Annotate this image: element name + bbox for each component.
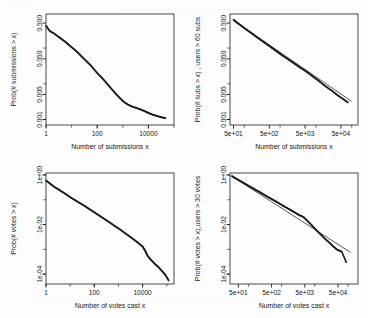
ccdf-step-path [46, 180, 169, 280]
plot-submissions-heavy-users: 5e+015e+025e+035e+040.5000.0500.0050.001… [184, 0, 368, 159]
plot-submissions-all: 1100100000.5000.0500.0050.001Number of s… [0, 0, 184, 159]
y-tick-label: 0.500 [220, 15, 227, 32]
y-tick-label: 0.001 [220, 111, 227, 128]
x-tick-label: 1 [44, 289, 48, 296]
ccdf-points [231, 175, 347, 263]
fit-line [233, 20, 351, 101]
chart-submissions-all: 1100100000.5000.0500.0050.001Number of s… [0, 0, 184, 159]
x-tick-label: 5e+01 [224, 130, 243, 137]
ccdf-points [45, 180, 169, 282]
chart-submissions-heavy-users: 5e+015e+025e+035e+040.5000.0500.0050.001… [184, 0, 368, 159]
x-axis-label: Number of submissions x [255, 143, 333, 150]
x-axis-label: Number of submissions x [71, 143, 149, 150]
y-tick-label: 1e+00 [36, 165, 43, 184]
x-tick-label: 1 [44, 130, 48, 137]
y-tick-label: 0.050 [36, 50, 43, 67]
x-tick-label: 10000 [133, 289, 152, 296]
chart-votes-all: 1100100001e+001e-021e-04Number of votes … [0, 159, 184, 318]
figure-panel-grid: 1100100000.5000.0500.0050.001Number of s… [0, 0, 368, 318]
x-tick-label: 10000 [139, 130, 158, 137]
y-tick-label: 1e-02 [220, 216, 227, 233]
y-tick-label: 1e-02 [36, 216, 43, 233]
x-tick-label: 5e+03 [296, 130, 315, 137]
y-axis: 0.5000.0500.0050.001 [220, 15, 230, 128]
y-axis: 0.5000.0500.0050.001 [36, 15, 46, 128]
y-tick-label: 1e+00 [220, 165, 227, 184]
x-axis: 5e+015e+025e+035e+04 [229, 284, 348, 296]
x-tick-label: 5e+02 [262, 289, 281, 296]
x-tick-label: 5e+04 [329, 289, 348, 296]
y-axis-label: Prob(# votes > x),users > 30 votes [194, 175, 202, 281]
plot-frame [46, 14, 174, 125]
plot-votes-heavy-users: 5e+015e+025e+035e+041e+001e-021e-04Numbe… [184, 159, 368, 318]
x-tick-label: 5e+01 [229, 289, 248, 296]
fit-line [232, 176, 351, 252]
y-tick-label: 0.005 [220, 86, 227, 103]
ccdf-step-path [232, 176, 346, 262]
y-tick-label: 0.001 [36, 111, 43, 128]
y-tick-label: 0.050 [220, 50, 227, 67]
x-tick-label: 5e+03 [296, 289, 315, 296]
y-tick-label: 0.005 [36, 86, 43, 103]
x-axis: 5e+015e+025e+035e+04 [224, 125, 351, 137]
x-tick-label: 100 [89, 289, 100, 296]
y-axis-label: Prob(# subs > x) , users > 60 subs [194, 16, 202, 122]
x-axis-label: Number of votes cast x [259, 302, 330, 309]
ccdf-points [45, 25, 166, 119]
x-axis-label: Number of votes cast x [75, 302, 146, 309]
plot-frame [46, 173, 174, 284]
y-axis-label: Prob(# submissions > x) [10, 32, 18, 106]
x-tick-label: 5e+04 [332, 130, 351, 137]
y-axis: 1e+001e-021e-04 [220, 165, 230, 282]
y-tick-label: 1e-04 [36, 265, 43, 282]
x-axis: 110010000 [44, 284, 167, 296]
x-tick-label: 5e+02 [260, 130, 279, 137]
y-tick-label: 0.500 [36, 15, 43, 32]
y-axis: 1e+001e-021e-04 [36, 165, 46, 282]
y-axis-label: Prob(# votes > x) [10, 202, 18, 255]
x-tick-label: 100 [92, 130, 103, 137]
ccdf-step-path [46, 26, 165, 118]
plot-votes-all: 1100100001e+001e-021e-04Number of votes … [0, 159, 184, 318]
chart-votes-heavy-users: 5e+015e+025e+035e+041e+001e-021e-04Numbe… [184, 159, 368, 318]
x-axis: 110010000 [44, 125, 174, 137]
plot-frame [230, 173, 358, 284]
y-tick-label: 1e-04 [220, 265, 227, 282]
